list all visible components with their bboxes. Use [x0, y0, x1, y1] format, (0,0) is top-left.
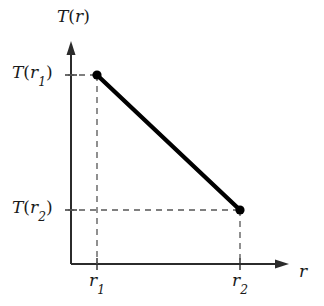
temperature-profile-figure: T(r) r T(r1) T(r2) r1 r2 [0, 0, 324, 306]
data-point-marker-r1 [92, 70, 101, 79]
x-tick-label-r1: r1 [89, 272, 105, 289]
x-tick-label-r2: r2 [232, 272, 248, 289]
y-tick-label-t-r2: T(r2) [12, 199, 53, 216]
data-point-marker-r2 [235, 205, 244, 214]
x-axis-label: r [299, 263, 307, 280]
y-tick-label-t-r1: T(r1) [12, 64, 53, 81]
y-axis-label: T(r) [57, 8, 90, 25]
plot-canvas [0, 0, 324, 306]
